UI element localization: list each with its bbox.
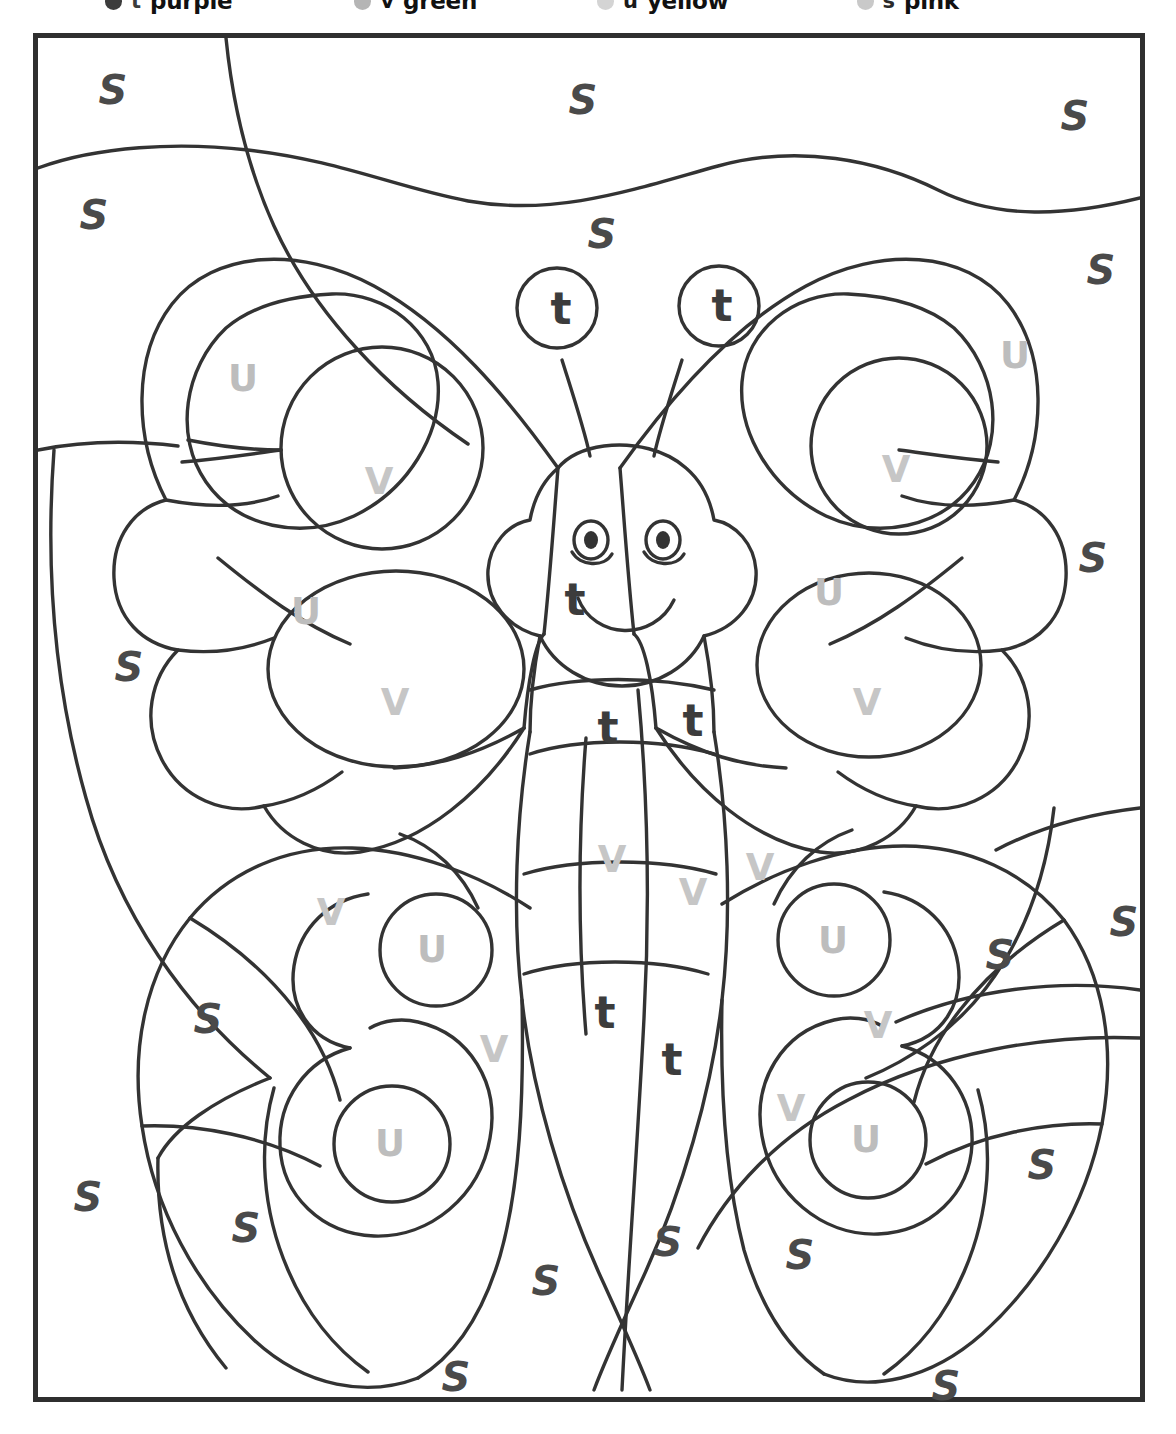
letter-label-s: S xyxy=(1028,1145,1057,1185)
letter-label-s: S xyxy=(80,195,109,235)
letter-label-u: U xyxy=(291,593,321,630)
legend-letter-u: u xyxy=(623,0,638,12)
legend-item-pink: s pink xyxy=(857,0,959,13)
letter-label-t: t xyxy=(597,706,618,750)
legend-item-green: v green xyxy=(354,0,477,13)
letter-label-s: S xyxy=(1079,538,1108,578)
letter-label-v: V xyxy=(777,1090,806,1127)
letter-label-t: t xyxy=(594,991,615,1035)
letter-label-s: S xyxy=(115,647,144,687)
letter-label-s: S xyxy=(194,999,223,1039)
letter-label-s: S xyxy=(654,1222,683,1262)
legend-swatch-green xyxy=(354,0,371,10)
letter-label-s: S xyxy=(232,1208,261,1248)
letter-label-t: t xyxy=(682,699,703,743)
letter-label-s: S xyxy=(786,1235,815,1275)
letter-label-s: S xyxy=(986,935,1015,975)
legend-swatch-purple xyxy=(105,0,122,10)
letter-label-u: U xyxy=(1000,337,1030,374)
letter-label-v: V xyxy=(853,684,882,721)
letter-label-v: V xyxy=(365,463,394,500)
worksheet-page: t purple v green u yellow s pink xyxy=(0,0,1176,1434)
letter-label-s: S xyxy=(588,214,617,254)
legend-word-purple: purple xyxy=(150,0,232,13)
letter-label-s: S xyxy=(1061,96,1090,136)
letter-label-v: V xyxy=(598,841,627,878)
legend-item-yellow: u yellow xyxy=(597,0,729,13)
letter-label-s: S xyxy=(99,70,128,110)
letter-label-s: S xyxy=(532,1261,561,1301)
letter-label-v: V xyxy=(746,849,775,886)
letter-label-u: U xyxy=(851,1121,881,1158)
letter-label-t: t xyxy=(661,1038,682,1082)
letter-label-s: S xyxy=(1110,902,1139,942)
letter-label-u: U xyxy=(375,1125,405,1162)
legend-swatch-yellow xyxy=(597,0,614,10)
legend-letter-v: v xyxy=(380,0,394,12)
color-legend-row: t purple v green u yellow s pink xyxy=(0,0,1176,18)
letter-label-u: U xyxy=(228,360,258,397)
letter-label-u: U xyxy=(814,574,844,611)
letter-label-t: t xyxy=(711,284,732,328)
letter-label-t: t xyxy=(564,578,585,622)
artwork-frame: SSSSSSSSSSSSSSSSSSSUUUUUUUUVVVVVVVVVVVtt… xyxy=(33,33,1145,1402)
legend-word-yellow: yellow xyxy=(647,0,729,13)
letter-label-t: t xyxy=(550,287,571,331)
letter-label-s: S xyxy=(569,80,598,120)
legend-letter-t: t xyxy=(131,0,141,12)
color-legend: t purple v green u yellow s pink xyxy=(0,0,1176,18)
letter-label-s: S xyxy=(442,1357,471,1397)
letter-label-v: V xyxy=(381,684,410,721)
legend-word-pink: pink xyxy=(904,0,959,13)
letter-label-v: V xyxy=(679,874,708,911)
legend-swatch-pink xyxy=(857,0,874,10)
letter-label-v: V xyxy=(882,451,911,488)
letter-label-s: S xyxy=(932,1366,961,1406)
legend-letter-s: s xyxy=(883,0,896,12)
letter-label-s: S xyxy=(74,1177,103,1217)
letter-label-v: V xyxy=(480,1031,509,1068)
letter-label-v: V xyxy=(317,894,346,931)
legend-word-green: green xyxy=(403,0,477,13)
letter-label-u: U xyxy=(417,931,447,968)
letter-label-u: U xyxy=(818,922,848,959)
letter-label-s: S xyxy=(1087,250,1116,290)
letter-label-v: V xyxy=(864,1007,893,1044)
legend-item-purple: t purple xyxy=(105,0,232,13)
